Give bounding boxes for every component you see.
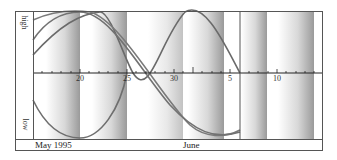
tick-label-5: 5 — [228, 74, 232, 83]
y-label-high: high — [20, 15, 29, 31]
tick-label-25: 25 — [123, 74, 131, 83]
month-label-june: June — [183, 140, 200, 150]
tick-label-30: 30 — [170, 74, 178, 83]
tick-label-10: 10 — [273, 74, 281, 83]
month-label-may: May 1995 — [35, 140, 72, 150]
y-label-low: low — [21, 117, 30, 133]
biorhythm-chart — [0, 0, 337, 160]
tick-label-20: 20 — [76, 74, 84, 83]
